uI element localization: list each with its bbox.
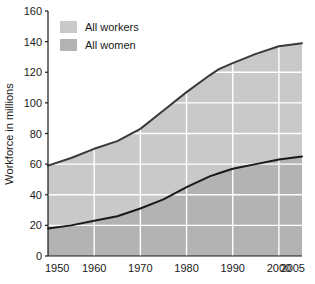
y-axis-tick-label: 140 (24, 36, 42, 48)
x-axis-tick-label: 1970 (128, 262, 152, 274)
x-axis-tick-labels: 1950196019701980199020002005 (45, 262, 305, 274)
legend-label: All women (85, 39, 136, 51)
y-axis-tick-label: 160 (24, 5, 42, 17)
y-axis-tick-label: 20 (30, 219, 42, 231)
x-axis-tick-label: 1950 (45, 262, 69, 274)
y-axis-tick-label: 120 (24, 66, 42, 78)
chart-container: 020406080100120140160 195019601970198019… (0, 0, 315, 284)
x-axis-tick-label: 1990 (220, 262, 244, 274)
legend-swatch (60, 21, 77, 33)
y-axis-tick-label: 60 (30, 158, 42, 170)
x-axis-tick-label: 1980 (174, 262, 198, 274)
workforce-area-chart: 020406080100120140160 195019601970198019… (0, 0, 315, 284)
legend-label: All workers (85, 21, 139, 33)
y-axis-tick-label: 100 (24, 97, 42, 109)
y-axis-title: Workforce in millions (3, 83, 15, 185)
x-axis-tick-label: 1960 (82, 262, 106, 274)
legend-swatch (60, 39, 77, 51)
y-axis-tick-label: 0 (36, 250, 42, 262)
x-axis-tick-label: 2005 (281, 262, 305, 274)
y-axis-tick-label: 80 (30, 128, 42, 140)
y-axis-tick-label: 40 (30, 189, 42, 201)
